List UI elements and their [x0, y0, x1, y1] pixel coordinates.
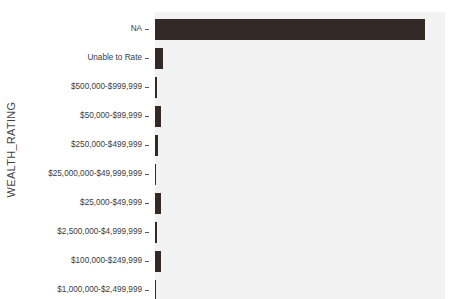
y-axis-tick-6: $25,000-$49,999 — [80, 189, 150, 218]
bar-8[interactable] — [155, 251, 161, 272]
y-axis-tick-label: $500,000-$999,999 — [71, 83, 142, 91]
y-axis-title: WEALTH_RATING — [0, 0, 22, 299]
bar-9[interactable] — [155, 280, 156, 299]
bar-row — [155, 247, 445, 276]
y-axis-tick-9: $1,000,000-$2,499,999 — [57, 276, 150, 299]
bar-2[interactable] — [155, 77, 157, 98]
y-axis-tick-label: Unable to Rate — [87, 54, 142, 62]
y-axis-tick-label: $25,000,000-$49,999,999 — [48, 170, 142, 178]
y-axis-tick-4: $250,000-$499,999 — [71, 131, 150, 160]
y-axis-tick-label: $1,000,000-$2,499,999 — [57, 286, 142, 294]
bar-row — [155, 44, 445, 73]
y-axis-tick-label: $100,000-$249,999 — [71, 257, 142, 265]
y-axis-tick-mark — [145, 232, 149, 233]
bar-7[interactable] — [155, 222, 157, 243]
y-axis-tick-3: $50,000-$99,999 — [80, 102, 150, 131]
bar-5[interactable] — [155, 164, 156, 185]
bar-row — [155, 131, 445, 160]
y-axis-tick-label-group: NAUnable to Rate$500,000-$999,999$50,000… — [22, 12, 150, 299]
y-axis-tick-8: $100,000-$249,999 — [71, 247, 150, 276]
y-axis-tick-0: NA — [131, 15, 150, 44]
bar-3[interactable] — [155, 106, 161, 127]
y-axis-tick-label: $250,000-$499,999 — [71, 141, 142, 149]
y-axis-tick-mark — [145, 58, 149, 59]
bar-row — [155, 218, 445, 247]
y-axis-tick-2: $500,000-$999,999 — [71, 73, 150, 102]
y-axis-tick-label: $50,000-$99,999 — [80, 112, 142, 120]
y-axis-tick-mark — [145, 29, 149, 30]
horizontal-bar-chart: WEALTH_RATING NAUnable to Rate$500,000-$… — [0, 0, 453, 299]
y-axis-tick-mark — [145, 290, 149, 291]
y-axis-tick-mark — [145, 261, 149, 262]
y-axis-tick-mark — [145, 87, 149, 88]
bar-4[interactable] — [155, 135, 158, 156]
bar-6[interactable] — [155, 193, 161, 214]
y-axis-tick-1: Unable to Rate — [87, 44, 150, 73]
bar-1[interactable] — [155, 48, 163, 69]
bar-row — [155, 276, 445, 299]
y-axis-tick-mark — [145, 116, 149, 117]
bar-row — [155, 189, 445, 218]
y-axis-tick-mark — [145, 203, 149, 204]
bar-row — [155, 73, 445, 102]
bar-0[interactable] — [155, 19, 425, 40]
y-axis-tick-5: $25,000,000-$49,999,999 — [48, 160, 150, 189]
y-axis-tick-label: $25,000-$49,999 — [80, 199, 142, 207]
y-axis-tick-mark — [145, 145, 149, 146]
y-axis-tick-mark — [145, 174, 149, 175]
bar-row — [155, 15, 445, 44]
y-axis-tick-label: $2,500,000-$4,999,999 — [57, 228, 142, 236]
bar-row — [155, 160, 445, 189]
bar-row — [155, 102, 445, 131]
plot-panel — [155, 12, 445, 299]
y-axis-tick-7: $2,500,000-$4,999,999 — [57, 218, 150, 247]
y-axis-tick-label: NA — [131, 25, 142, 33]
